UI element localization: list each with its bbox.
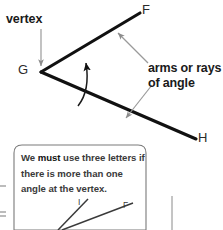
callout-text-part1: We [21, 152, 38, 163]
vertex-label: vertex [6, 13, 42, 26]
arms-or-rays-label: arms or rays of angle [148, 61, 221, 92]
point-label-f: F [142, 3, 150, 17]
callout-box-neighbor-lower [0, 216, 6, 230]
arrow-up-left-icon [118, 33, 148, 63]
angle-arc-arrow-icon [78, 63, 87, 106]
ray-GF [41, 13, 140, 72]
point-label-h: H [198, 131, 207, 145]
callout-message: We must use three letters if there is mo… [21, 150, 149, 197]
callout-text-emphasis: must [38, 152, 61, 163]
arms-or-rays-label-line2: of angle [148, 76, 221, 91]
lower-point-label-i: I [78, 198, 80, 207]
lower-point-label-f: F [123, 201, 128, 210]
angle-diagram-figure: vertex G F H arms or rays of angle We mu… [0, 0, 223, 230]
arms-or-rays-label-line1: arms or rays [148, 61, 221, 76]
point-label-g: G [18, 63, 28, 77]
callout-box-neighbor-upper [0, 186, 6, 212]
